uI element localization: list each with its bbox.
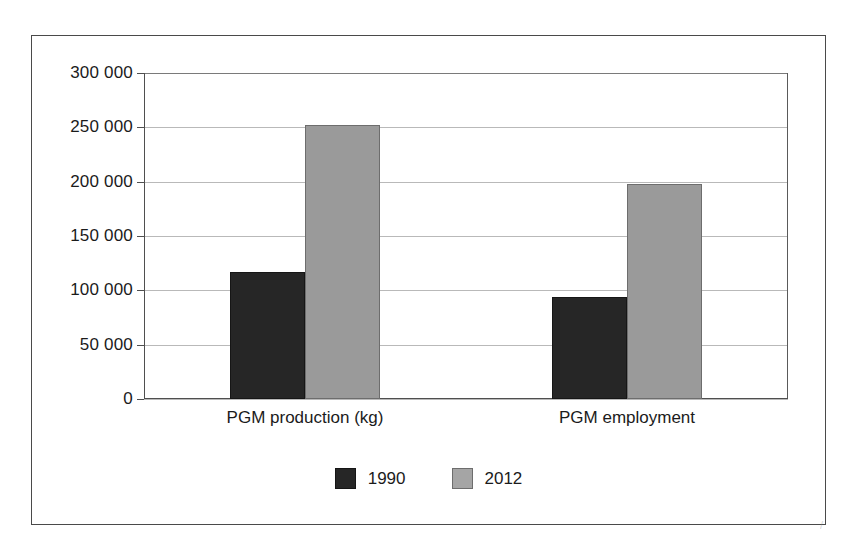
plot-area: 050 000100 000150 000200 000250 000300 0… <box>144 73 788 399</box>
x-axis-category-label: PGM employment <box>559 408 695 428</box>
y-axis-tick-label: 200 000 <box>70 172 133 192</box>
y-axis-tick <box>137 182 144 183</box>
x-axis-category-label: PGM production (kg) <box>227 408 384 428</box>
gridline <box>144 73 788 74</box>
gridline <box>144 127 788 128</box>
bar-2012-1 <box>305 125 380 399</box>
figure-frame: 050 000100 000150 000200 000250 000300 0… <box>31 35 826 525</box>
y-axis-tick-label: 100 000 <box>70 280 133 300</box>
legend-swatch-icon <box>335 468 356 489</box>
gridline <box>144 399 788 400</box>
plot-right-border <box>787 73 788 399</box>
y-axis-line <box>144 73 145 399</box>
bar-1990-1 <box>230 272 305 399</box>
legend-item-2012[interactable]: 2012 <box>452 468 523 489</box>
y-axis-tick <box>137 399 144 400</box>
y-axis-tick <box>137 290 144 291</box>
y-axis-tick-label: 0 <box>123 389 133 409</box>
gridline <box>144 182 788 183</box>
y-axis-tick <box>137 73 144 74</box>
y-axis-tick-label: 250 000 <box>70 117 133 137</box>
scan-top-artifact <box>0 0 857 10</box>
bar-2012-2 <box>627 184 702 399</box>
legend-label: 1990 <box>368 469 406 489</box>
y-axis-tick-label: 50 000 <box>80 335 133 355</box>
legend-swatch-icon <box>452 468 473 489</box>
scan-speckle-mark: / <box>820 520 826 530</box>
y-axis-tick <box>137 127 144 128</box>
legend-label: 2012 <box>485 469 523 489</box>
y-axis-tick-label: 300 000 <box>70 63 133 83</box>
chart-legend: 19902012 <box>32 468 825 489</box>
legend-item-1990[interactable]: 1990 <box>335 468 406 489</box>
bar-1990-2 <box>552 297 627 399</box>
y-axis-tick-label: 150 000 <box>70 226 133 246</box>
y-axis-tick <box>137 236 144 237</box>
y-axis-tick <box>137 345 144 346</box>
